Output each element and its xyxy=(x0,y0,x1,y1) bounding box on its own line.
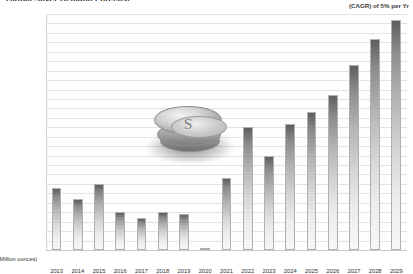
bar-column[interactable] xyxy=(264,156,274,250)
bar xyxy=(222,178,232,250)
x-axis-tick-label: 2020 xyxy=(199,268,212,274)
bar xyxy=(328,95,338,250)
bar-column[interactable] xyxy=(349,65,359,250)
bar xyxy=(73,199,83,250)
x-axis-tick-label: 2027 xyxy=(347,268,360,274)
x-axis-tick-label: 2013 xyxy=(50,268,63,274)
bar-column[interactable] xyxy=(391,20,401,250)
bar xyxy=(158,212,168,250)
x-axis-tick-label: 2019 xyxy=(178,268,191,274)
x-axis-tick-label: 2016 xyxy=(114,268,127,274)
plot-area: 1,5251,5001,4751,4501,4251,4001,3751,350… xyxy=(46,14,407,250)
bar-column[interactable] xyxy=(52,188,62,250)
x-axis-tick-label: 2017 xyxy=(135,268,148,274)
bar-column[interactable] xyxy=(94,184,104,250)
bar xyxy=(307,112,317,250)
bar xyxy=(115,212,125,250)
page-title: Global Silver Demand Forecast xyxy=(6,0,130,1)
x-axis-tick-label: 2022 xyxy=(241,268,254,274)
bar-column[interactable] xyxy=(115,212,125,250)
x-axis-tick-label: 2023 xyxy=(263,268,276,274)
bar xyxy=(200,248,210,250)
bar xyxy=(391,20,401,250)
bar-column[interactable] xyxy=(137,218,147,250)
x-axis-tick-label: 2026 xyxy=(326,268,339,274)
x-axis-tick-label: 2021 xyxy=(220,268,233,274)
bar-column[interactable] xyxy=(73,199,83,250)
bar xyxy=(349,65,359,250)
cagr-annotation: (CAGR) of 5% per Yr xyxy=(349,2,409,9)
x-axis-tick-label: 2028 xyxy=(369,268,382,274)
bar-column[interactable] xyxy=(179,214,189,250)
bar-column[interactable] xyxy=(200,248,210,250)
bar xyxy=(370,39,380,250)
x-axis-tick-label: 2029 xyxy=(390,268,403,274)
coin-face xyxy=(171,116,227,138)
bar-column[interactable] xyxy=(243,127,253,250)
coin-stack-illustration: S xyxy=(144,100,236,166)
gridline xyxy=(46,250,407,251)
bar xyxy=(52,188,62,250)
coin-glyph: S xyxy=(184,117,192,132)
bar-column[interactable] xyxy=(307,112,317,250)
bar-column[interactable] xyxy=(285,124,295,250)
coin-top-icon: S xyxy=(154,106,222,134)
bar xyxy=(285,124,295,250)
bar xyxy=(264,156,274,250)
bar-column[interactable] xyxy=(158,212,168,250)
bar-column[interactable] xyxy=(370,39,380,250)
x-axis-tick-label: 2015 xyxy=(93,268,106,274)
y-axis-units-label: (Million ounces) xyxy=(0,256,44,262)
bar xyxy=(94,184,104,250)
bar xyxy=(137,218,147,250)
x-axis-tick-label: 2014 xyxy=(71,268,84,274)
x-axis-tick-label: 2025 xyxy=(305,268,318,274)
bar xyxy=(243,127,253,250)
bar xyxy=(179,214,189,250)
bar-column[interactable] xyxy=(328,95,338,250)
bar-column[interactable] xyxy=(222,178,232,250)
x-axis-tick-label: 2024 xyxy=(284,268,297,274)
x-axis-tick-label: 2018 xyxy=(156,268,169,274)
